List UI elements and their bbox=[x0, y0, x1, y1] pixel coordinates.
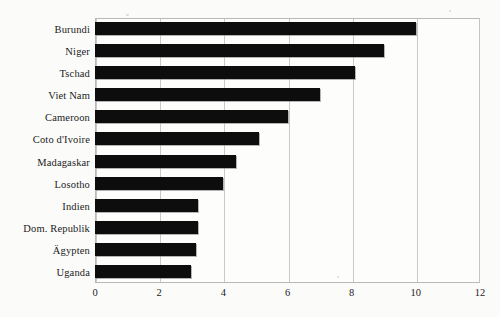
scan-speck bbox=[337, 276, 339, 278]
bar-row bbox=[95, 261, 480, 283]
category-label-viet-nam: Viet Nam bbox=[0, 90, 90, 102]
category-label-cameroon: Cameroon bbox=[0, 112, 90, 124]
bar-row bbox=[95, 239, 480, 261]
bar-indien bbox=[95, 199, 198, 212]
bars-layer bbox=[95, 18, 480, 283]
category-label-uganda: Uganda bbox=[0, 267, 90, 279]
bar-tschad bbox=[95, 66, 355, 79]
bar-losotho bbox=[95, 177, 223, 190]
bar-row bbox=[95, 18, 480, 40]
bar-chart: Burundi Niger Tschad Viet Nam Cameroon C… bbox=[0, 0, 500, 317]
bar-coto-divoire bbox=[95, 132, 259, 145]
scan-speck bbox=[126, 14, 129, 16]
category-label-niger: Niger bbox=[0, 46, 90, 58]
xtick-label-2: 2 bbox=[157, 286, 162, 299]
bar-uganda bbox=[95, 265, 191, 278]
category-label-tschad: Tschad bbox=[0, 68, 90, 80]
xtick-label-4: 4 bbox=[221, 286, 226, 299]
bar-row bbox=[95, 40, 480, 62]
bar-row bbox=[95, 62, 480, 84]
x-axis: 0 2 4 6 8 10 12 bbox=[95, 286, 480, 304]
bar-row bbox=[95, 217, 480, 239]
xtick-label-8: 8 bbox=[349, 286, 354, 299]
category-label-coto-divoire: Coto d'Ivoire bbox=[0, 134, 90, 146]
bar-row bbox=[95, 151, 480, 173]
category-axis: Burundi Niger Tschad Viet Nam Cameroon C… bbox=[0, 18, 90, 283]
bar-viet-nam bbox=[95, 88, 320, 101]
category-label-dom-republik: Dom. Republik bbox=[0, 223, 90, 235]
scan-speck bbox=[449, 10, 451, 12]
bar-row bbox=[95, 173, 480, 195]
category-label-losotho: Losotho bbox=[0, 179, 90, 191]
category-label-agypten: Ägypten bbox=[0, 245, 90, 257]
category-label-indien: Indien bbox=[0, 201, 90, 213]
bar-burundi bbox=[95, 22, 416, 35]
bar-agypten bbox=[95, 243, 196, 256]
bar-cameroon bbox=[95, 110, 288, 123]
category-label-burundi: Burundi bbox=[0, 24, 90, 36]
bar-dom-republik bbox=[95, 221, 198, 234]
bar-row bbox=[95, 128, 480, 150]
category-label-madagaskar: Madagaskar bbox=[0, 157, 90, 169]
xtick-label-10: 10 bbox=[411, 286, 422, 299]
bar-row bbox=[95, 84, 480, 106]
xtick-label-12: 12 bbox=[475, 286, 486, 299]
xtick-label-0: 0 bbox=[92, 286, 97, 299]
bar-row bbox=[95, 106, 480, 128]
bar-row bbox=[95, 195, 480, 217]
xtick-label-6: 6 bbox=[285, 286, 290, 299]
bar-niger bbox=[95, 44, 384, 57]
bar-madagaskar bbox=[95, 155, 236, 168]
